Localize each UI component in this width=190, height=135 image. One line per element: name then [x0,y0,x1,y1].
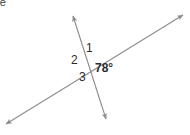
clipped-caption-text: re [0,0,6,8]
angle-measure-label: 78° [95,62,113,74]
angle-label-1: 1 [86,42,93,54]
angle-label-2: 2 [71,54,78,66]
geometry-figure: re 1 2 3 78° [0,0,190,135]
angle-label-3: 3 [79,71,86,83]
